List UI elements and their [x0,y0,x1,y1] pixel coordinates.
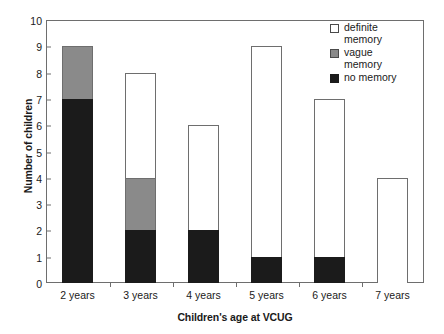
x-axis-tick-label: 7 years [358,289,428,301]
legend-swatch-vague-memory [330,49,339,58]
stacked-bar-chart: Number of children 109876543210 2 years3… [0,0,444,334]
x-axis-tick-label: 2 years [43,289,113,301]
y-axis-tick-label: 10 [30,16,47,27]
x-axis-tick-label: 3 years [106,289,176,301]
bar [125,73,156,283]
bar-segment-definite-memory [251,46,282,256]
x-axis-tick-label: 4 years [169,289,239,301]
bar [188,125,219,283]
legend-item: vague memory [330,47,426,70]
legend-label: vague memory [344,47,382,70]
bar-segment-no-memory [251,257,282,283]
legend-label: definite memory [344,22,382,45]
bar-segment-no-memory [62,99,93,283]
legend-label: no memory [344,72,397,84]
bar-segment-no-memory [125,230,156,283]
bar-segment-definite-memory [314,99,345,257]
bar-segment-no-memory [188,230,219,283]
bar-segment-vague-memory [125,178,156,231]
bar [251,46,282,283]
x-axis-tick-label: 5 years [232,289,302,301]
bar-segment-definite-memory [377,178,408,283]
y-axis-tick: 10 [30,16,47,27]
bar [314,99,345,283]
bar-segment-definite-memory [188,125,219,230]
bar-segment-no-memory [314,257,345,283]
bar [377,178,408,283]
x-axis-tick-label: 6 years [295,289,365,301]
bar-segment-vague-memory [62,46,93,99]
legend-item: definite memory [330,22,426,45]
legend-swatch-no-memory [330,74,339,83]
chart-legend: definite memoryvague memoryno memory [330,22,426,86]
legend-item: no memory [330,72,426,84]
y-axis-title: Number of children [22,56,34,236]
legend-swatch-definite-memory [330,24,339,33]
bar [62,46,93,283]
bar-segment-definite-memory [125,73,156,178]
x-axis-title: Children's age at VCUG [46,311,424,323]
